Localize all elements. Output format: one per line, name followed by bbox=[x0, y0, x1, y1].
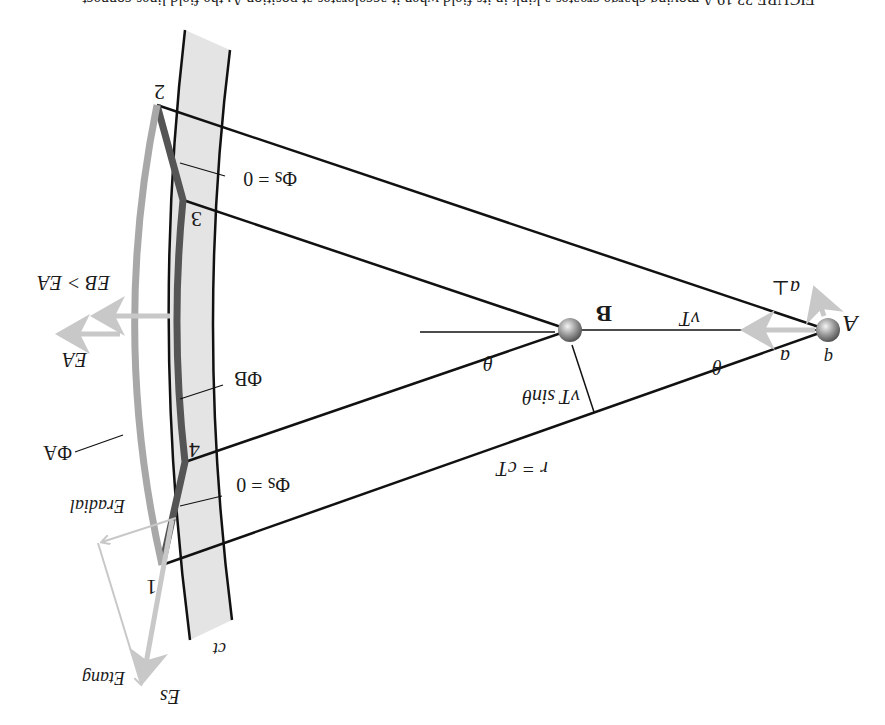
label-E-radial: Eradial bbox=[70, 496, 126, 516]
label-r-eq-cT: r = cT bbox=[495, 458, 548, 480]
label-E-s: Es bbox=[160, 686, 181, 708]
label-ct: ct bbox=[212, 639, 226, 659]
label-theta-A: θ bbox=[712, 356, 722, 378]
labels: A q B a a⊥ vT θ θ vT sinθ r = cT ct 2 3 … bbox=[37, 80, 860, 708]
label-point-2: 2 bbox=[154, 80, 165, 105]
label-point-1: 1 bbox=[146, 575, 157, 600]
label-a-vec: a bbox=[780, 346, 790, 368]
field-diagram: A q B a a⊥ vT θ θ vT sinθ r = cT ct 2 3 … bbox=[0, 0, 885, 725]
field-line-A-to-1 bbox=[162, 330, 828, 565]
label-point-4: 4 bbox=[189, 438, 200, 463]
label-point-3: 3 bbox=[191, 207, 202, 232]
label-B: B bbox=[596, 301, 612, 327]
E-tang-component bbox=[98, 543, 141, 684]
label-A: A bbox=[843, 311, 860, 337]
label-theta-B: θ bbox=[483, 352, 493, 374]
gaussian-surface-light bbox=[135, 105, 162, 565]
label-E-tang: Etang bbox=[82, 668, 126, 688]
phi-A-leader bbox=[75, 435, 123, 452]
label-q: q bbox=[824, 348, 833, 368]
label-phi-s-top: Φs = 0 bbox=[243, 168, 297, 190]
a-perp-arrow bbox=[815, 290, 824, 316]
charge-A bbox=[816, 318, 840, 342]
label-phi-A: ΦA bbox=[42, 442, 72, 464]
label-vT-sin-theta: vT sinθ bbox=[522, 386, 580, 408]
label-phi-B: ΦB bbox=[234, 368, 262, 390]
label-E-B-gt-E-A: EB > EA bbox=[37, 272, 111, 294]
label-vT: vT bbox=[678, 308, 700, 330]
label-phi-s-bottom: Φs = 0 bbox=[236, 474, 290, 496]
label-a-perp: a⊥ bbox=[771, 277, 800, 299]
field-line-B-to-3 bbox=[183, 200, 570, 330]
charge-B bbox=[558, 318, 582, 342]
label-E-A: EA bbox=[62, 349, 88, 371]
field-line-A-to-2 bbox=[157, 105, 828, 330]
